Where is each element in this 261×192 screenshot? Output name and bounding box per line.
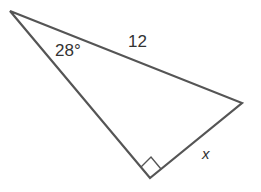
- unknown-side-label: x: [202, 146, 210, 161]
- right-angle-marker: [141, 157, 161, 169]
- angle-label: 28°: [55, 42, 81, 59]
- hypotenuse-label: 12: [128, 33, 147, 50]
- triangle-diagram: [0, 0, 261, 192]
